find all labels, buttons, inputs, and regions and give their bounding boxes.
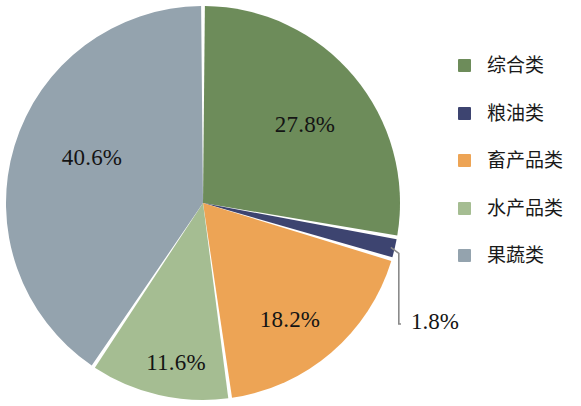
legend-swatch-icon (458, 59, 471, 72)
legend-swatch-icon (458, 107, 471, 120)
legend-item[interactable]: 综合类 (458, 42, 581, 90)
legend-item[interactable]: 果蔬类 (458, 232, 581, 280)
slice-value-label: 18.2% (260, 307, 320, 332)
slice-callout-value-label: 1.8% (411, 309, 459, 334)
callout-leader-group (391, 247, 401, 324)
legend-item[interactable]: 水产品类 (458, 185, 581, 233)
pie-chart-figure: 27.8%1.8%18.2%11.6%40.6% 综合类粮油类畜产品类水产品类果… (0, 0, 581, 406)
legend-item-label: 畜产品类 (487, 151, 563, 170)
legend-swatch-icon (458, 249, 471, 262)
slice-value-label: 27.8% (275, 112, 335, 137)
legend-item-label: 水产品类 (487, 199, 563, 218)
legend-item[interactable]: 畜产品类 (458, 137, 581, 185)
legend-swatch-icon (458, 202, 471, 215)
pie-slice-3[interactable] (203, 203, 391, 398)
legend-item[interactable]: 粮油类 (458, 90, 581, 138)
chart-legend: 综合类粮油类畜产品类水产品类果蔬类 (458, 42, 581, 280)
legend-swatch-icon (458, 154, 471, 167)
legend-item-label: 粮油类 (487, 104, 544, 123)
callout-leader-line (391, 247, 401, 324)
legend-item-label: 综合类 (487, 56, 544, 75)
legend-item-label: 果蔬类 (487, 246, 544, 265)
slice-value-label: 40.6% (62, 145, 122, 170)
slice-value-label: 11.6% (146, 350, 206, 375)
pie-slices-group (6, 6, 400, 400)
